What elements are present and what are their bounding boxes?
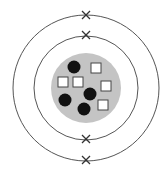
filled-particle-icon [59,94,72,107]
electron-cross-icon [82,31,90,39]
electron-cross-icon [82,156,90,164]
filled-particle-icon [84,88,97,101]
filled-particle-icon [78,103,91,116]
square-particle-icon [58,77,68,87]
square-particle-icon [98,100,108,110]
square-particle-icon [101,81,111,91]
filled-particle-icon [68,61,81,74]
square-particle-icon [91,63,101,73]
atom-diagram [0,0,168,178]
square-particle-icon [73,77,83,87]
electron-cross-icon [82,135,90,143]
